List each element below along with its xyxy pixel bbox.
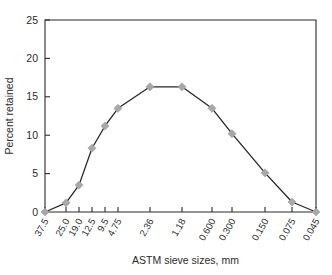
data-point-marker <box>146 83 154 91</box>
y-tick-label: 0 <box>32 206 38 218</box>
data-line <box>45 87 316 212</box>
x-axis-title: ASTM sieve sizes, mm <box>132 254 239 266</box>
data-point-marker <box>312 208 320 216</box>
x-tick-label: 0.045 <box>300 217 321 243</box>
x-tick-label: 2.36 <box>137 217 156 239</box>
y-tick-label: 25 <box>26 14 38 26</box>
y-tick-label: 20 <box>26 52 38 64</box>
data-point-marker <box>178 83 186 91</box>
x-tick-label: 1.18 <box>169 217 188 239</box>
x-tick-label: 0.075 <box>276 217 297 243</box>
data-point-marker <box>41 208 49 216</box>
y-tick-label: 15 <box>26 90 38 102</box>
x-tick-label: 0.600 <box>196 217 217 243</box>
x-tick-label: 4.75 <box>105 217 124 239</box>
data-point-marker <box>88 144 96 152</box>
y-tick-label: 10 <box>26 129 38 141</box>
x-tick-label: 0.300 <box>216 217 237 243</box>
percent-retained-line-chart: 051015202537.525.019.012.59.54.752.361.1… <box>0 0 332 275</box>
x-tick-label: 0.150 <box>249 217 270 243</box>
x-tick-label: 37.5 <box>32 217 51 239</box>
chart-figure: 051015202537.525.019.012.59.54.752.361.1… <box>0 0 332 275</box>
y-tick-label: 5 <box>32 167 38 179</box>
y-axis-title: Percent retained <box>3 77 15 154</box>
